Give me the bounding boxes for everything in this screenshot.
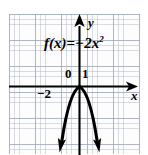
equation-exponent: 2 (99, 34, 104, 44)
graph-figure: f(x)=−2x2 0 1 −2 y x (0, 0, 148, 155)
parabola-left-branch (62, 87, 80, 141)
parabola-right-branch (80, 87, 98, 141)
equation-label: f(x)=−2x2 (44, 36, 104, 51)
tick-label-neg-two: −2 (37, 87, 51, 100)
plot-svg (0, 0, 148, 155)
equation-function-name: f(x) (44, 35, 67, 51)
x-axis (9, 82, 138, 92)
axis-label-x: x (131, 89, 138, 102)
tick-label-zero: 0 (65, 67, 72, 80)
equation-expression: −2x (75, 35, 99, 51)
y-axis-arrow-icon (74, 14, 84, 27)
equation-equals: = (67, 35, 76, 51)
tick-label-one: 1 (82, 67, 89, 80)
axis-label-y: y (88, 16, 94, 29)
